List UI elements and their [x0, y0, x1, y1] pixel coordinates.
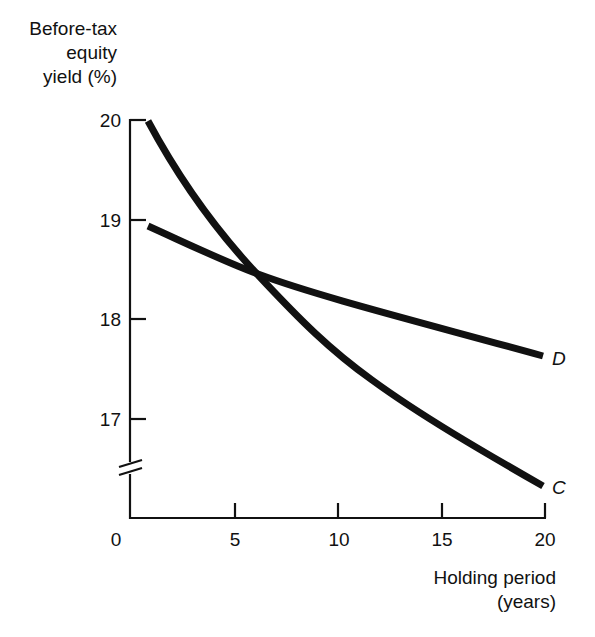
x-axis-title-line-1: Holding period [433, 567, 556, 588]
series-d-line [148, 226, 543, 356]
axis-break-mark [119, 468, 142, 475]
x-tick-label-15: 15 [431, 529, 452, 550]
series-d-label: D [552, 348, 566, 369]
chart: Before-tax equity yield (%) 20 19 18 17 … [0, 0, 595, 637]
y-tick-label-18: 18 [100, 309, 121, 330]
y-axis-title-line-2: equity [66, 42, 117, 63]
y-axis-title-line-3: yield (%) [43, 66, 117, 87]
x-tick-label-20: 20 [534, 529, 555, 550]
y-tick-label-17: 17 [100, 409, 121, 430]
y-tick-label-19: 19 [100, 210, 121, 231]
x-tick-label-5: 5 [230, 529, 241, 550]
y-tick-label-20: 20 [100, 110, 121, 131]
x-tick-label-0: 0 [111, 529, 122, 550]
x-axis-title-line-2: (years) [497, 591, 556, 612]
x-tick-label-10: 10 [328, 529, 349, 550]
y-axis [119, 119, 146, 519]
y-axis-title-line-1: Before-tax [29, 18, 117, 39]
series-c-label: C [552, 477, 566, 498]
x-axis [129, 503, 546, 518]
